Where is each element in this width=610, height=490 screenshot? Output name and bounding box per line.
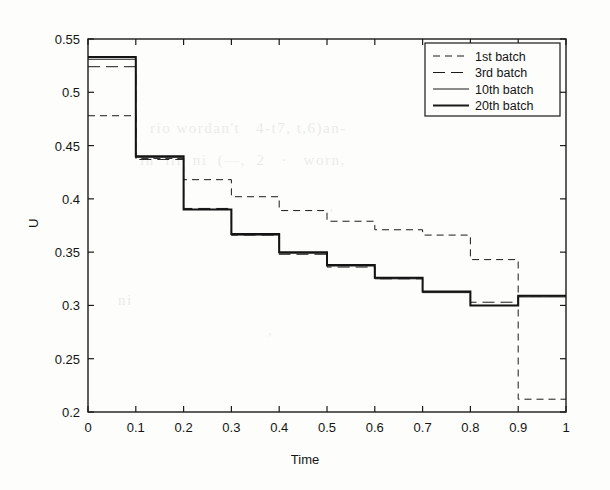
x-tick-label: 0.3 xyxy=(222,420,240,435)
legend-box[interactable]: 1st batch3rd batch10th batch20th batch xyxy=(425,43,560,116)
chart-figure: U Time 0.550.50.450.40.350.30.250.2 00.1… xyxy=(0,0,610,490)
x-tick-label: 0.1 xyxy=(127,420,145,435)
x-tick-label: 0.8 xyxy=(461,420,479,435)
y-tick-label: 0.25 xyxy=(16,351,80,366)
x-axis-label: Time xyxy=(0,452,610,467)
legend-label-1st-batch: 1st batch xyxy=(475,50,526,64)
legend-label-20th-batch: 20th batch xyxy=(475,99,533,113)
x-tick-label: 0.4 xyxy=(270,420,288,435)
y-tick-label: 0.45 xyxy=(16,138,80,153)
legend-label-10th-batch: 10th batch xyxy=(475,83,533,97)
legend-label-3rd-batch: 3rd batch xyxy=(475,66,527,80)
x-tick-label: 1 xyxy=(562,420,569,435)
y-tick-label: 0.3 xyxy=(16,298,80,313)
x-tick-label: 0.2 xyxy=(175,420,193,435)
x-tick-label: 0.5 xyxy=(318,420,336,435)
plot-canvas: 1st batch3rd batch10th batch20th batch xyxy=(0,0,610,490)
y-tick-label: 0.4 xyxy=(16,191,80,206)
x-tick-label: 0 xyxy=(84,420,91,435)
y-tick-label: 0.35 xyxy=(16,245,80,260)
y-tick-label: 0.2 xyxy=(16,405,80,420)
x-tick-label: 0.6 xyxy=(366,420,384,435)
x-tick-label: 0.7 xyxy=(414,420,432,435)
x-tick-label: 0.9 xyxy=(509,420,527,435)
y-axis-label: U xyxy=(26,219,41,228)
y-tick-label: 0.55 xyxy=(16,32,80,47)
y-tick-label: 0.5 xyxy=(16,85,80,100)
